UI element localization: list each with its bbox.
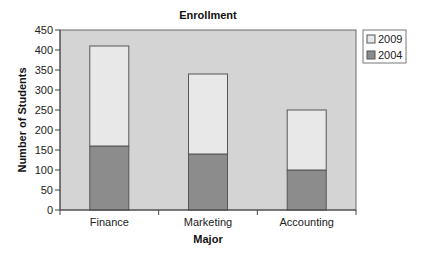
y-tick-label: 250 (35, 104, 53, 116)
x-axis: FinanceMarketingAccounting (60, 210, 356, 228)
y-axis: 050100150200250300350400450 (35, 24, 60, 216)
bar-finance-2009 (90, 46, 129, 146)
bar-finance-2004 (90, 146, 129, 210)
y-tick-label: 100 (35, 164, 53, 176)
y-tick-label: 450 (35, 24, 53, 36)
x-tick-label: Accounting (279, 216, 333, 228)
x-tick-label: Finance (90, 216, 129, 228)
y-axis-title: Number of Students (16, 67, 28, 172)
y-tick-label: 150 (35, 144, 53, 156)
legend-swatch-2009 (367, 35, 375, 43)
enrollment-chart: Enrollment 050100150200250300350400450 F… (0, 0, 424, 260)
bar-accounting-2004 (287, 170, 326, 210)
x-tick-label: Marketing (184, 216, 232, 228)
legend: 20092004 (363, 30, 406, 63)
bar-marketing-2004 (189, 154, 228, 210)
legend-label-2004: 2004 (378, 49, 402, 61)
y-tick-label: 50 (41, 184, 53, 196)
y-tick-label: 0 (47, 204, 53, 216)
y-tick-label: 400 (35, 44, 53, 56)
legend-label-2009: 2009 (378, 33, 402, 45)
chart-title: Enrollment (179, 9, 237, 21)
x-axis-title: Major (193, 233, 223, 245)
bar-accounting-2009 (287, 110, 326, 170)
y-tick-label: 350 (35, 64, 53, 76)
y-tick-label: 300 (35, 84, 53, 96)
bar-marketing-2009 (189, 74, 228, 154)
y-tick-label: 200 (35, 124, 53, 136)
legend-swatch-2004 (367, 51, 375, 59)
